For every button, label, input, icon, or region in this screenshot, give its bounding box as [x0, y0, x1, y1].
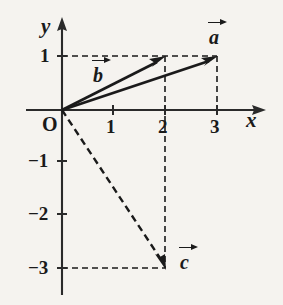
vector-c-letter: c [180, 251, 189, 273]
tick-label-y-neg2: −2 [28, 204, 48, 223]
guide-lines-group [62, 56, 217, 268]
y-axis-arrowhead [57, 17, 67, 31]
y-axis-label: y [41, 16, 50, 37]
tick-label-y-neg3: −3 [28, 258, 48, 277]
tick-marks-group [57, 56, 217, 268]
vector-b-group [62, 56, 166, 110]
vector-a-label: a [209, 18, 219, 47]
over-arrow-icon [208, 18, 227, 26]
tick-label-x-2: 2 [158, 117, 168, 136]
tick-label-x-1: 1 [106, 117, 116, 136]
vector-a-arrowhead [201, 56, 218, 66]
origin-label: O [42, 114, 58, 134]
vector-diagram-figure: y x O 1 1 2 3 −1 −2 −3 a b c [0, 0, 283, 305]
over-arrow-icon [179, 243, 198, 251]
vector-b-letter: b [93, 64, 103, 86]
vector-b-shaft [62, 62, 157, 110]
vector-a-group [62, 56, 218, 110]
axes-group [26, 24, 261, 295]
x-axis-label: x [246, 110, 257, 131]
vector-b-label: b [93, 56, 103, 85]
vector-a-shaft [62, 61, 209, 110]
over-arrow-icon [92, 56, 111, 64]
vector-c-label: c [180, 243, 189, 272]
tick-label-y-neg1: −1 [28, 151, 48, 170]
tick-label-y-1: 1 [40, 46, 50, 65]
tick-label-x-3: 3 [210, 117, 220, 136]
vector-a-letter: a [209, 26, 219, 48]
